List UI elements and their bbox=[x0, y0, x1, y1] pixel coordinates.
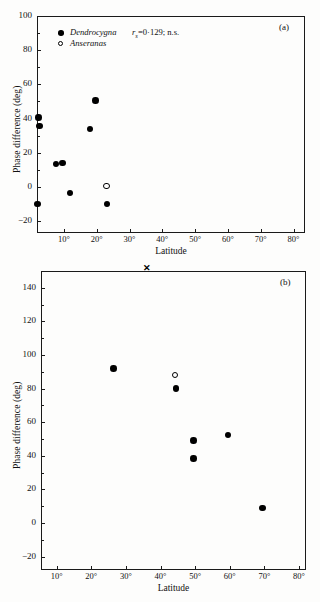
y-tick bbox=[41, 456, 45, 457]
y-tick-minor bbox=[41, 439, 44, 440]
panel-label-b: (b) bbox=[280, 277, 291, 287]
x-tick-label: 80° bbox=[289, 572, 309, 581]
data-point-cygnus bbox=[110, 365, 117, 372]
y-tick bbox=[37, 221, 41, 222]
x-tick-label: 80° bbox=[284, 235, 304, 244]
x-tick-label: 10° bbox=[54, 235, 74, 244]
y-tick-label: 80 bbox=[8, 45, 32, 54]
x-tick bbox=[161, 566, 162, 570]
y-tick bbox=[41, 489, 45, 490]
legend-stat-a: rs=0·129; n.s. bbox=[132, 27, 179, 41]
x-tick bbox=[57, 566, 58, 570]
x-tick-label: 20° bbox=[81, 572, 101, 581]
panel-label-a: (a) bbox=[279, 22, 289, 32]
legend-label-dendrocygna: Dendrocygna bbox=[70, 27, 116, 38]
y-tick-minor bbox=[37, 67, 40, 68]
x-tick bbox=[299, 566, 300, 570]
y-tick-label: 100 bbox=[8, 11, 32, 20]
y-tick bbox=[41, 557, 45, 558]
y-tick-minor bbox=[41, 405, 44, 406]
y-tick-label: 20 bbox=[8, 148, 32, 157]
x-tick bbox=[230, 566, 231, 570]
data-point-dendrocygna bbox=[67, 190, 74, 197]
x-tick bbox=[64, 229, 65, 233]
y-tick-label: 0 bbox=[12, 518, 36, 527]
x-tick bbox=[261, 229, 262, 233]
x-tick bbox=[195, 229, 196, 233]
y-tick bbox=[41, 523, 45, 524]
data-point-anseranas bbox=[103, 183, 109, 189]
x-tick bbox=[264, 566, 265, 570]
data-point-cygnus bbox=[259, 505, 266, 512]
x-tick-label: 60° bbox=[218, 235, 238, 244]
data-point-dendrocygna bbox=[92, 97, 99, 104]
x-tick-label: 70° bbox=[251, 235, 271, 244]
data-point-cygnus bbox=[190, 437, 197, 444]
y-tick-label: −20 bbox=[8, 216, 32, 225]
y-tick bbox=[41, 321, 45, 322]
y-axis-title-a: Phase difference (deg) bbox=[12, 85, 22, 172]
legend-label-anseranas: Anseranas bbox=[70, 38, 106, 49]
data-point-cygnus bbox=[173, 385, 180, 392]
data-point-dendrocygna bbox=[34, 201, 41, 208]
y-tick-minor bbox=[37, 33, 40, 34]
y-tick-label: 0 bbox=[8, 182, 32, 191]
y-tick-label: 140 bbox=[12, 283, 36, 292]
y-tick bbox=[41, 389, 45, 390]
plot-frame-b bbox=[41, 271, 306, 570]
x-tick bbox=[130, 229, 131, 233]
data-point-cygnus bbox=[190, 455, 197, 462]
y-tick-minor bbox=[41, 372, 44, 373]
panel-a: (a) Phase difference (deg) Latitude 1008… bbox=[0, 0, 320, 252]
x-tick-label: 70° bbox=[254, 572, 274, 581]
y-tick-minor bbox=[37, 101, 40, 102]
x-tick bbox=[162, 229, 163, 233]
x-tick bbox=[228, 229, 229, 233]
y-tick-minor bbox=[37, 136, 40, 137]
y-tick bbox=[41, 288, 45, 289]
y-tick bbox=[37, 153, 41, 154]
y-tick bbox=[37, 84, 41, 85]
y-tick-label: 120 bbox=[12, 316, 36, 325]
x-tick-label: 40° bbox=[152, 235, 172, 244]
data-point-dendrocygna bbox=[35, 114, 42, 121]
y-tick-label: −20 bbox=[12, 552, 36, 561]
y-tick-minor bbox=[41, 473, 44, 474]
y-tick-label: 40 bbox=[8, 114, 32, 123]
y-tick bbox=[37, 50, 41, 51]
x-tick-label: 30° bbox=[116, 572, 136, 581]
y-tick-label: 60 bbox=[8, 79, 32, 88]
x-tick-label: 60° bbox=[220, 572, 240, 581]
y-tick-label: 100 bbox=[12, 350, 36, 359]
y-tick-minor bbox=[37, 170, 40, 171]
x-tick-label: 20° bbox=[87, 235, 107, 244]
x-axis-title-b: Latitude bbox=[114, 583, 234, 593]
data-point-dendrocygna bbox=[59, 160, 66, 167]
y-tick bbox=[41, 355, 45, 356]
x-tick-label: 50° bbox=[185, 572, 205, 581]
y-tick bbox=[41, 422, 45, 423]
y-tick-minor bbox=[41, 540, 44, 541]
x-tick bbox=[294, 229, 295, 233]
x-tick bbox=[91, 566, 92, 570]
data-point-cereopsis: ✕ bbox=[143, 264, 151, 273]
y-tick-label: 40 bbox=[12, 451, 36, 460]
x-tick bbox=[97, 229, 98, 233]
y-tick bbox=[37, 16, 41, 17]
x-tick-label: 30° bbox=[120, 235, 140, 244]
filled-circle-icon bbox=[58, 30, 64, 36]
panel-b: (b) Phase difference (deg) Latitude 1401… bbox=[0, 252, 320, 602]
y-tick-minor bbox=[41, 305, 44, 306]
x-tick-label: 50° bbox=[185, 235, 205, 244]
y-tick-minor bbox=[41, 338, 44, 339]
x-tick bbox=[195, 566, 196, 570]
x-tick-label: 40° bbox=[151, 572, 171, 581]
x-tick-label: 10° bbox=[47, 572, 67, 581]
y-tick bbox=[37, 187, 41, 188]
y-tick-label: 60 bbox=[12, 417, 36, 426]
y-tick-label: 80 bbox=[12, 384, 36, 393]
x-tick bbox=[126, 566, 127, 570]
y-tick-label: 20 bbox=[12, 484, 36, 493]
y-tick-minor bbox=[41, 506, 44, 507]
